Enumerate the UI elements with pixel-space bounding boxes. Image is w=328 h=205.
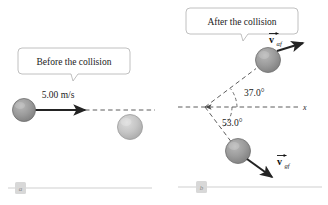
projectile-highlight [15,102,25,109]
panel-b-callout-label: After the collision [207,17,276,27]
panel-b-gold-velocity-label: v gf [277,154,291,169]
panel-a-target-sphere [118,115,143,140]
panel-a-callout-label: Before the collision [37,57,112,67]
figure-canvas: Before the collision 5.00 m/s a [0,0,328,205]
alpha-vector-symbol: v [269,34,274,45]
panel-a-letter: a [19,185,23,193]
panel-b-gold-velocity-arrow [247,159,272,177]
physics-collision-figure: Before the collision 5.00 m/s a [0,0,328,205]
panel-a: Before the collision 5.00 m/s a [8,48,155,194]
target-circle [118,115,143,140]
gold-vector-subscript: gf [285,162,291,169]
gold-vector-symbol: v [277,156,282,167]
alpha-highlight [259,51,270,59]
alpha-circle [256,48,281,73]
panel-a-callout: Before the collision [18,48,130,81]
panel-a-projectile-sphere [13,99,36,122]
panel-b-angle-label-53: 53.0° [222,118,243,128]
panel-b-x-axis-label: x [302,103,307,112]
panel-b: After the collision x 37.0° 53.0° [178,8,322,193]
panel-b-callout: After the collision [186,8,298,41]
panel-b-angle-arc-37 [231,89,237,107]
vector-overbar-arrowhead [284,154,287,157]
projectile-circle [13,99,36,122]
panel-b-angle-label-37: 37.0° [244,88,265,98]
panel-b-alpha-sphere [256,48,281,73]
panel-a-velocity-label: 5.00 m/s [42,90,75,100]
gold-highlight [229,142,240,150]
target-highlight [121,118,132,126]
alpha-vector-subscript: αf [277,40,283,47]
panel-b-letter: b [200,184,204,192]
